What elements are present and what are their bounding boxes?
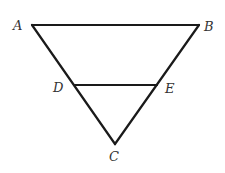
triangle-diagram: A B C D E [0, 0, 225, 173]
label-e: E [164, 81, 175, 96]
label-b: B [203, 19, 214, 34]
label-d: D [52, 80, 64, 95]
label-a: A [12, 18, 22, 33]
label-c: C [109, 149, 119, 164]
